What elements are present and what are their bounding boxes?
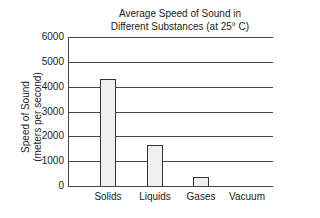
y-tick-label: 2000 xyxy=(24,130,64,141)
bar-liquids xyxy=(147,145,163,186)
gridline xyxy=(68,112,273,113)
bar-gases xyxy=(193,177,209,186)
y-tick-label: 6000 xyxy=(24,31,64,42)
y-tick-label: 3000 xyxy=(24,106,64,117)
chart-title: Average Speed of Sound in Different Subs… xyxy=(80,7,280,33)
gridline xyxy=(68,136,273,137)
x-tick-label-solids: Solids xyxy=(83,191,133,202)
gridline xyxy=(68,186,273,187)
gridline xyxy=(68,37,273,38)
gridline xyxy=(68,161,273,162)
y-tick-label: 1000 xyxy=(24,155,64,166)
x-tick-label-vacuum: Vacuum xyxy=(222,191,272,202)
y-tick-label: 5000 xyxy=(24,56,64,67)
x-tick-label-liquids: Liquids xyxy=(130,191,180,202)
y-tick-label: 0 xyxy=(24,180,64,191)
gridline xyxy=(68,87,273,88)
y-tick-label: 4000 xyxy=(24,81,64,92)
title-line-2: Different Substances (at 25° C) xyxy=(80,20,280,33)
title-line-1: Average Speed of Sound in xyxy=(80,7,280,20)
gridline xyxy=(68,62,273,63)
bar-solids xyxy=(100,79,116,186)
x-tick-label-gases: Gases xyxy=(176,191,226,202)
